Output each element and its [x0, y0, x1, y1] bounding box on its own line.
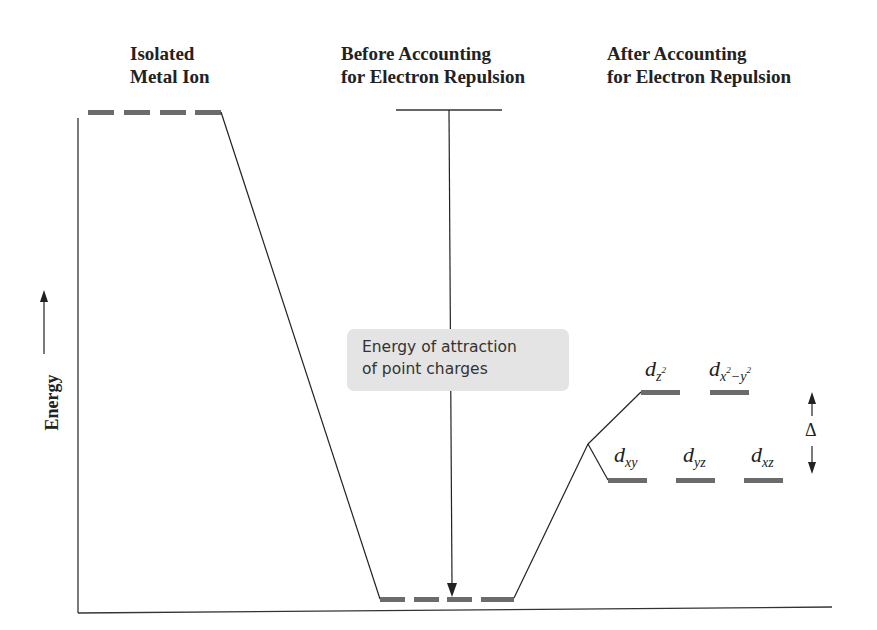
t2g-levels	[608, 478, 783, 483]
x-axis	[78, 607, 832, 613]
callout-line: Energy of attraction	[362, 336, 569, 358]
connector-to-eg	[588, 392, 641, 444]
isolated-levels	[88, 110, 221, 115]
arrow-down-icon	[447, 583, 457, 597]
eg-levels	[641, 390, 749, 395]
delta-down-arrow-icon	[808, 462, 816, 474]
lowered-levels	[380, 597, 514, 602]
connector-to-t2g	[588, 444, 608, 480]
energy-axis-label: Energy	[42, 311, 63, 431]
delta-up-arrow-icon	[808, 392, 816, 404]
attraction-callout: Energy of attraction of point charges	[347, 329, 569, 391]
orbital-dyz: dyz	[683, 442, 706, 471]
splitting-delta-label: Δ	[805, 420, 817, 441]
connector-to-split	[514, 444, 588, 598]
orbital-dz2: dz2	[645, 356, 666, 385]
orbital-dxz: dxz	[751, 442, 774, 471]
orbital-dx2y2: dx2−y2	[709, 356, 751, 385]
callout-line: of point charges	[362, 358, 569, 380]
energy-diagram	[0, 0, 877, 630]
orbital-dxy: dxy	[614, 442, 637, 471]
